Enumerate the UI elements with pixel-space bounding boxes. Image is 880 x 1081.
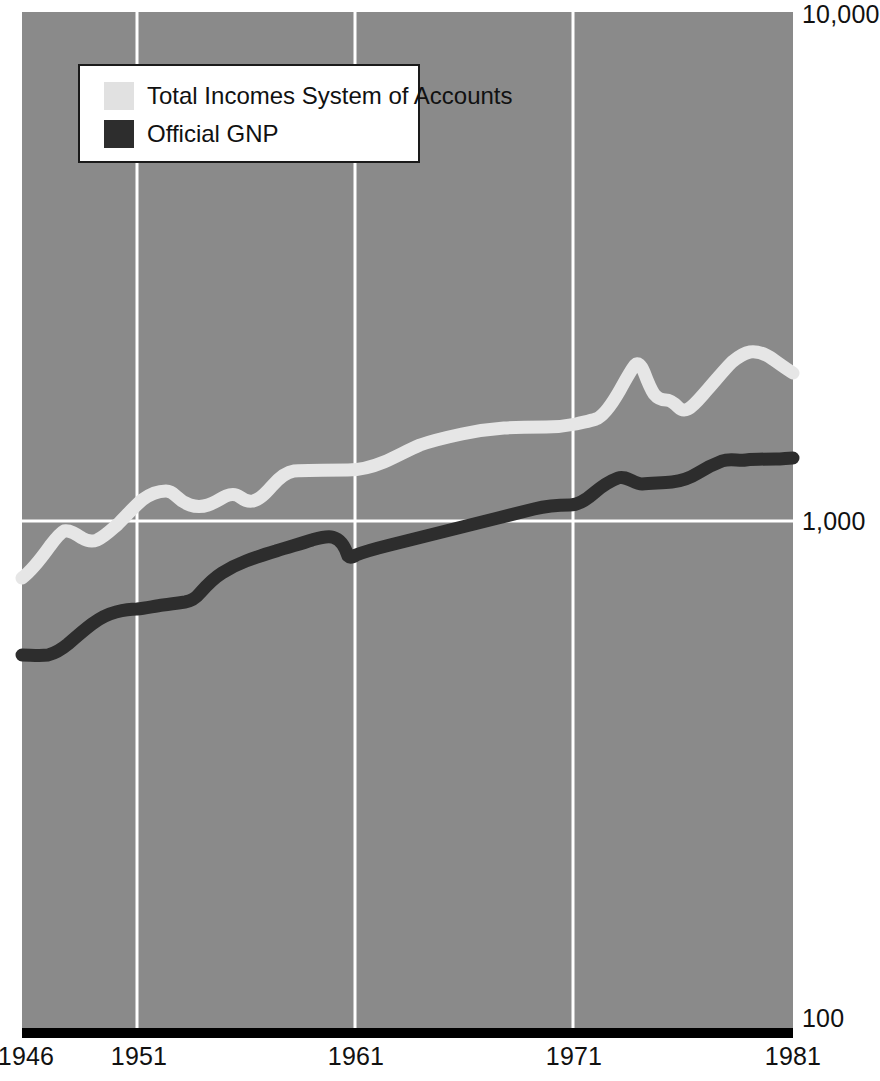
- legend-swatch-official-gnp: [104, 120, 134, 148]
- y-axis-tick-1000: 1,000: [802, 507, 866, 536]
- legend-item-total-incomes: Total Incomes System of Accounts: [104, 78, 418, 114]
- x-axis-tick-1951: 1951: [79, 1042, 199, 1071]
- x-axis-tick-1971: 1971: [514, 1042, 634, 1071]
- legend-swatch-total-incomes: [104, 82, 134, 110]
- chart-legend: Total Incomes System of Accounts Officia…: [78, 64, 420, 163]
- y-axis-tick-100: 100: [802, 1004, 844, 1033]
- legend-item-official-gnp: Official GNP: [104, 116, 418, 152]
- x-axis-tick-1961: 1961: [296, 1042, 416, 1071]
- x-axis-tick-1946: 1946: [0, 1042, 86, 1071]
- y-axis-tick-10000: 10,000: [802, 0, 880, 29]
- legend-label-official-gnp: Official GNP: [147, 122, 279, 146]
- legend-label-total-incomes: Total Incomes System of Accounts: [147, 84, 513, 108]
- x-axis-tick-1981: 1981: [733, 1042, 853, 1071]
